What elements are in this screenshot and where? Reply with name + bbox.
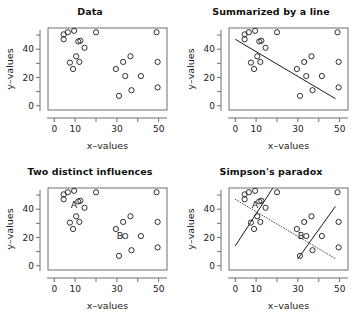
data-point xyxy=(65,30,70,35)
x-axis-tick-label: 50 xyxy=(334,284,346,294)
data-point xyxy=(253,28,258,33)
data-point xyxy=(336,219,341,224)
data-point xyxy=(74,214,79,219)
x-axis-title: x–values xyxy=(268,140,309,151)
y-axis-title: y–values xyxy=(185,208,196,249)
plot-area-simpsons: 010305002040x–valuesy–values AB xyxy=(181,160,361,319)
data-point xyxy=(116,253,121,258)
data-point xyxy=(155,245,160,250)
data-point xyxy=(74,54,79,59)
data-point xyxy=(319,73,324,78)
plot-area-data: 010305002040x–valuesy–values xyxy=(0,0,180,159)
data-point xyxy=(116,93,121,98)
axes-summarized: 010305002040x–valuesy–values xyxy=(185,28,348,151)
plot-area-summarized: 010305002040x–valuesy–values xyxy=(181,0,361,159)
x-axis-tick-label: 30 xyxy=(292,124,304,134)
data-point xyxy=(253,188,258,193)
x-axis-tick-label: 10 xyxy=(69,284,81,294)
data-point xyxy=(319,233,324,238)
simpsons-paradox-figure: Data 010305002040x–valuesy–values Summar… xyxy=(0,0,361,319)
data-point xyxy=(113,66,118,71)
x-axis-tick-label: 10 xyxy=(250,124,262,134)
regression-line-group-a xyxy=(235,188,273,246)
y-axis-tick-label: 20 xyxy=(23,73,35,83)
x-axis-title: x–values xyxy=(87,300,128,311)
overall-regression xyxy=(235,39,335,98)
data-point xyxy=(336,59,341,64)
data-point xyxy=(129,248,134,253)
data-point xyxy=(248,60,253,65)
x-axis-tick-label: 0 xyxy=(51,124,57,134)
regression-line-overall-dotted xyxy=(235,199,335,258)
data-point xyxy=(302,59,307,64)
x-axis-title: x–values xyxy=(87,140,128,151)
data-point xyxy=(242,37,247,42)
data-point xyxy=(138,233,143,238)
data-point xyxy=(335,30,340,35)
data-point xyxy=(72,188,77,193)
data-point xyxy=(309,54,314,59)
data-point xyxy=(82,45,87,50)
y-axis-tick-label: 20 xyxy=(204,233,216,243)
data-point xyxy=(310,248,315,253)
group-label-a: A xyxy=(71,199,78,210)
panel-simpsons: Simpson's paradox 010305002040x–valuesy–… xyxy=(181,160,361,319)
data-point xyxy=(93,30,98,35)
x-axis-tick-label: 30 xyxy=(111,124,123,134)
overall-regression xyxy=(235,199,335,258)
data-point xyxy=(72,28,77,33)
data-point xyxy=(123,233,128,238)
data-point xyxy=(67,60,72,65)
panel-summarized: Summarized by a line 010305002040x–value… xyxy=(181,0,361,159)
x-axis-tick-label: 30 xyxy=(111,284,123,294)
data-point xyxy=(255,54,260,59)
data-point xyxy=(297,93,302,98)
data-point xyxy=(246,190,251,195)
data-point xyxy=(242,197,247,202)
data-point xyxy=(128,54,133,59)
data-point xyxy=(258,59,263,64)
plot-area-two-influences: 010305002040x–valuesy–values AB xyxy=(0,160,180,319)
data-point xyxy=(155,85,160,90)
data-point xyxy=(154,30,159,35)
x-axis-tick-label: 0 xyxy=(232,284,238,294)
axes-data: 010305002040x–valuesy–values xyxy=(4,28,167,151)
x-axis-tick-label: 30 xyxy=(292,284,304,294)
data-point xyxy=(336,245,341,250)
data-point xyxy=(263,205,268,210)
x-axis-tick-label: 10 xyxy=(250,284,262,294)
data-point xyxy=(70,226,75,231)
data-point xyxy=(77,59,82,64)
y-axis-tick-label: 0 xyxy=(28,101,34,111)
data-point xyxy=(304,233,309,238)
data-point xyxy=(263,45,268,50)
data-point xyxy=(121,219,126,224)
x-axis-title: x–values xyxy=(268,300,309,311)
y-axis-tick-label: 20 xyxy=(23,233,35,243)
points-summarized xyxy=(242,28,341,98)
data-point xyxy=(246,30,251,35)
regression-line-overall xyxy=(235,39,335,98)
data-point xyxy=(335,190,340,195)
data-point xyxy=(302,219,307,224)
x-axis-tick-label: 50 xyxy=(334,124,346,134)
data-point xyxy=(258,219,263,224)
x-axis-tick-label: 50 xyxy=(153,284,165,294)
data-point xyxy=(82,205,87,210)
data-point xyxy=(77,219,82,224)
x-axis-tick-label: 50 xyxy=(153,124,165,134)
data-point xyxy=(70,66,75,71)
data-point xyxy=(65,190,70,195)
data-point xyxy=(155,59,160,64)
x-axis-tick-label: 0 xyxy=(51,284,57,294)
data-point xyxy=(251,226,256,231)
data-point xyxy=(67,220,72,225)
data-point xyxy=(93,190,98,195)
data-point xyxy=(294,66,299,71)
data-point xyxy=(61,197,66,202)
group-label-b: B xyxy=(298,230,305,241)
y-axis-tick-label: 0 xyxy=(209,101,215,111)
y-axis-tick-label: 40 xyxy=(23,44,35,54)
y-axis-title: y–values xyxy=(185,48,196,89)
y-axis-tick-label: 0 xyxy=(28,261,34,271)
